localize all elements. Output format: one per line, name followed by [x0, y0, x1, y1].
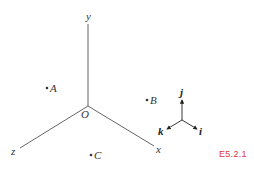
- point-c-dot: [90, 154, 93, 157]
- point-a-dot: [46, 87, 49, 90]
- z-axis-label: z: [10, 145, 16, 157]
- k-vector-arrow: [167, 120, 182, 129]
- k-vector-label: k: [158, 125, 164, 137]
- i-vector-label: i: [199, 125, 203, 137]
- point-a-label: A: [49, 82, 57, 94]
- coordinate-diagram: y z x O A B C j k i E5.2.1: [0, 0, 254, 169]
- origin-label: O: [81, 108, 89, 120]
- y-axis-label: y: [85, 10, 91, 22]
- j-vector-label: j: [178, 86, 184, 98]
- point-b-dot: [146, 99, 149, 102]
- i-vector-arrow: [182, 120, 197, 129]
- z-axis-line: [20, 106, 88, 148]
- point-b-label: B: [150, 94, 157, 106]
- x-axis-line: [88, 106, 154, 146]
- figure-label: E5.2.1: [219, 149, 247, 159]
- point-c-label: C: [94, 149, 102, 161]
- x-axis-label: x: [155, 143, 161, 155]
